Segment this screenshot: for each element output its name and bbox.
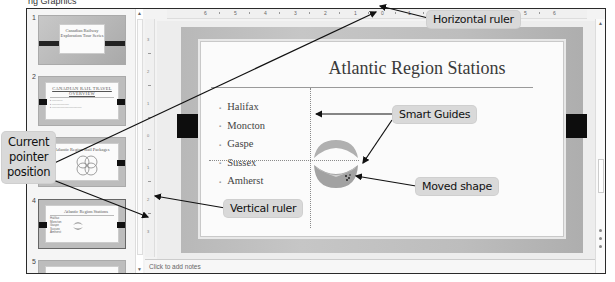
top-arc-shape[interactable] [313,138,359,160]
ruler-tick [148,85,151,86]
bullet-list[interactable]: Halifax Moncton Gaspe Sussex Amherst [219,98,265,191]
venn-diagram-icon [72,154,102,176]
thumb-title: CANADIAN RAIL TRAVEL OVERVIEW [46,83,118,96]
next-slide-icon[interactable] [599,237,602,240]
title-divider [211,87,533,88]
ruler-label: 2 [147,197,149,202]
thumb-number-4: 4 [32,197,36,204]
ruler-tick [148,53,151,54]
ruler-tick [148,181,151,182]
side-block-left [177,114,199,138]
thumb-content: Atlantic Region Stations Halifax Moncton… [45,205,119,243]
ruler-label: 1 [147,165,149,170]
thumb-number-1: 1 [32,14,36,21]
moved-shape[interactable] [313,164,359,190]
callout-moved-shape: Moved shape [416,178,498,195]
ruler-tick [249,12,250,14]
powerpoint-window: 1 Canadian Railway Exploration Tour Seri… [26,8,606,274]
ruler-tick [148,117,151,118]
bullet-item: Moncton [219,117,265,136]
side-block-right [565,114,587,138]
ruler-label: 1 [354,10,357,16]
ruler-tick [368,12,369,14]
notes-pane[interactable]: Click to add notes [145,259,595,273]
callout-current-pointer: Current pointer position [2,132,55,183]
ruler-label: 3 [147,229,149,234]
side-block [117,160,125,166]
ruler-tick [148,213,151,214]
ruler-tick [339,12,340,14]
horizontal-ruler: 6 5 4 3 2 1 0 1 2 3 4 5 6 [167,9,587,19]
circle-shape-icon [72,220,84,232]
scroll-down-icon[interactable]: ▼ [137,266,142,272]
side-block [117,222,125,228]
notes-placeholder: Click to add notes [149,263,201,270]
top-strip: ng Graphics [0,0,615,8]
prev-slide-icon[interactable] [599,229,602,232]
ruler-tick [279,12,280,14]
vertical-ruler: 3 2 1 0 1 2 3 [145,19,155,257]
slide-thumbnail-1[interactable]: Canadian Railway Exploration Tour Series [38,15,126,65]
ruler-tick [219,12,220,14]
callout-horizontal-ruler: Horizontal ruler [427,11,520,28]
callout-line: position [7,165,50,180]
scroll-thumb[interactable] [598,159,604,193]
side-block [117,99,125,105]
callout-line: pointer [7,150,50,165]
callout-line: Current [7,135,50,150]
slide-thumbnail-5[interactable] [38,260,126,273]
side-block [39,222,47,228]
ruler-label: 6 [204,10,207,16]
slide-title[interactable]: Atlantic Region Stations [201,58,563,79]
ruler-label: 2 [324,10,327,16]
side-block [39,99,47,105]
bullet-item: Halifax [219,98,265,117]
ruler-tick [309,12,310,14]
slide-nav-icon[interactable] [599,245,602,248]
ruler-label: 1 [408,10,411,16]
thumb-number-2: 2 [32,73,36,80]
ruler-label: 5 [234,10,237,16]
thumb-bullet: Amherst [50,231,118,235]
ruler-label: 0 [381,10,384,16]
thumb-content: Atlantic Region Rail Packages [45,143,119,181]
thumb-content [45,266,119,273]
cropped-heading: ng Graphics [28,0,77,6]
ruler-tick [423,12,424,14]
thumb-content: CANADIAN RAIL TRAVEL OVERVIEW ▪ ───── ▪ … [45,82,119,120]
ruler-tick [539,12,540,14]
thumb-bullet: ▪ ────────────── [50,106,118,110]
ruler-label: 5 [524,10,527,16]
thumb-title: Atlantic Region Stations [46,206,118,214]
slide-vertical-scrollbar[interactable]: ▲ [595,19,605,273]
scroll-up-icon[interactable]: ▲ [598,20,603,26]
bullet-item: Amherst [219,172,265,191]
callout-smart-guides: Smart Guides [393,106,476,123]
ruler-label: 3 [294,10,297,16]
scroll-up-icon[interactable]: ▲ [137,10,142,16]
ruler-tick [148,149,151,150]
thumb-title: Atlantic Region Rail Packages [46,144,118,152]
ruler-tick [395,12,396,14]
thumb-rule [50,215,114,216]
ruler-label: 1 [147,101,149,106]
ruler-label: 0 [147,133,149,138]
scroll-thumb[interactable] [137,19,143,255]
slide-background: Atlantic Region Stations Halifax Moncton… [181,27,583,253]
thumb-content: Canadian Railway Exploration Tour Series [59,24,105,54]
slide-editing-pane: Atlantic Region Stations Halifax Moncton… [157,21,595,259]
bullet-item: Gaspe [219,135,265,154]
ruler-label: 3 [147,37,149,42]
ruler-label: 6 [553,10,556,16]
slide-thumbnail-4[interactable]: Atlantic Region Stations Halifax Moncton… [38,199,126,249]
slide-thumbnail-2[interactable]: CANADIAN RAIL TRAVEL OVERVIEW ▪ ───── ▪ … [38,76,126,126]
bullet-item: Sussex [219,154,265,173]
smart-guide-vertical [310,88,311,228]
smart-guide-horizontal [209,160,359,161]
ruler-label: 4 [264,10,267,16]
callout-vertical-ruler: Vertical ruler [224,200,302,217]
ruler-label: 2 [147,69,149,74]
thumbnail-scrollbar[interactable]: ▲ ▼ [135,9,143,273]
thumb-number-5: 5 [32,258,36,265]
thumb-title: Canadian Railway Exploration Tour Series [60,25,104,38]
